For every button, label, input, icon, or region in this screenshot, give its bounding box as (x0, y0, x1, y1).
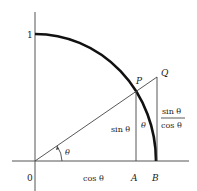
label-origin: 0 (27, 173, 33, 183)
label-tan-numerator: sin θ (162, 107, 181, 116)
label-theta-angle: θ (65, 148, 70, 157)
label-theta-arc: θ (141, 121, 146, 130)
unit-arc (35, 34, 156, 161)
label-Q: Q (161, 68, 169, 78)
label-cos: cos θ (83, 174, 104, 183)
label-B: B (151, 173, 159, 183)
label-one: 1 (27, 30, 33, 40)
label-P: P (135, 76, 143, 86)
label-A: A (130, 173, 138, 183)
ray-OQ (35, 77, 157, 161)
unit-circle-diagram: 1 0 P Q A B θ θ sin θ cos θ sin θ cos θ (0, 0, 197, 191)
label-tan-denominator: cos θ (161, 121, 182, 130)
diagram-canvas: 1 0 P Q A B θ θ sin θ cos θ sin θ cos θ (0, 0, 197, 191)
label-sin: sin θ (111, 125, 130, 134)
